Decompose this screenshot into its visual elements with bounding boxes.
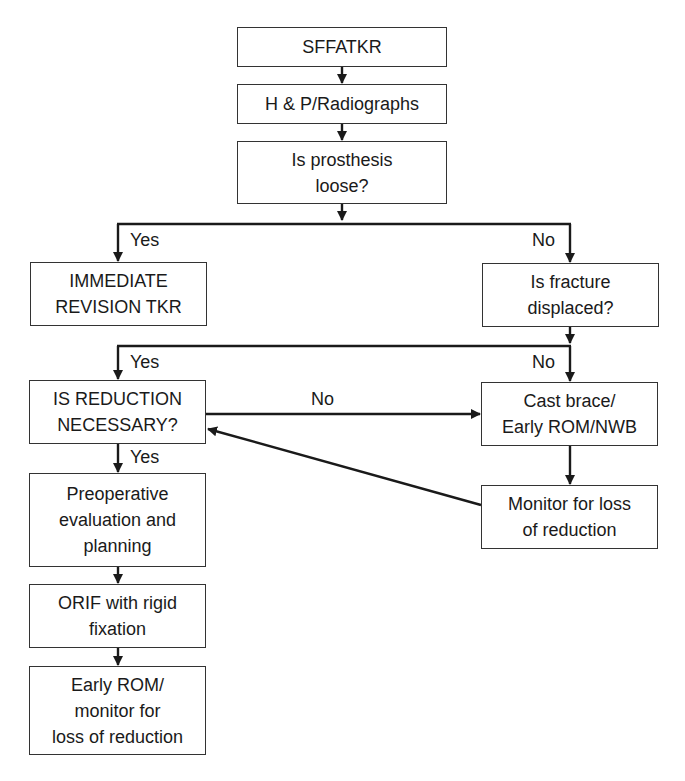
edge-label-loose-no: No	[532, 230, 555, 250]
node-cast-brace: Cast brace/ Early ROM/NWB	[481, 382, 658, 446]
node-label: SFFATKR	[302, 34, 382, 60]
node-orif: ORIF with rigid fixation	[29, 584, 206, 648]
node-label: ORIF with rigid fixation	[58, 590, 177, 642]
edge-label-loose-yes: Yes	[130, 230, 159, 250]
node-label: IMMEDIATE REVISION TKR	[55, 268, 182, 320]
node-preoperative: Preoperative evaluation and planning	[29, 473, 206, 567]
edge-label-displaced-yes: Yes	[130, 352, 159, 372]
node-label: Early ROM/ monitor for loss of reduction	[52, 672, 183, 750]
node-label: IS REDUCTION NECESSARY?	[53, 386, 182, 438]
node-reduction-necessary: IS REDUCTION NECESSARY?	[29, 380, 206, 444]
node-history-radiographs: H & P/Radiographs	[237, 84, 447, 124]
node-label: Monitor for loss of reduction	[508, 491, 631, 543]
edge-label-reduction-no: No	[311, 389, 334, 409]
node-monitor-loss: Monitor for loss of reduction	[481, 485, 658, 549]
node-label: Is prosthesis loose?	[291, 147, 392, 199]
node-early-rom: Early ROM/ monitor for loss of reduction	[29, 666, 206, 755]
node-label: H & P/Radiographs	[265, 91, 419, 117]
node-label: Cast brace/ Early ROM/NWB	[502, 388, 637, 440]
node-sffatkr: SFFATKR	[237, 27, 447, 67]
edge-label-reduction-yes: Yes	[130, 447, 159, 467]
node-label: Is fracture displaced?	[527, 269, 613, 321]
node-prosthesis-loose: Is prosthesis loose?	[237, 141, 447, 204]
node-label: Preoperative evaluation and planning	[59, 481, 176, 559]
edge-label-displaced-no: No	[532, 352, 555, 372]
node-fracture-displaced: Is fracture displaced?	[482, 263, 659, 327]
node-immediate-revision: IMMEDIATE REVISION TKR	[30, 262, 207, 326]
